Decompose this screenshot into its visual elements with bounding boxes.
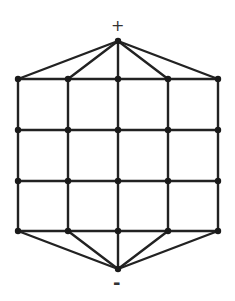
grid-node	[165, 178, 171, 184]
bottom-apex-edge	[18, 231, 118, 269]
grid-node	[15, 76, 21, 82]
grid-node	[15, 178, 21, 184]
grid-node	[215, 127, 221, 133]
grid-node	[65, 127, 71, 133]
grid-node	[215, 178, 221, 184]
top-apex-edge	[118, 41, 218, 79]
positive-terminal-label: +	[111, 18, 124, 34]
graph-edges	[18, 41, 218, 269]
grid-node	[115, 76, 121, 82]
grid-node	[215, 76, 221, 82]
grid-graph-diagram	[0, 0, 235, 301]
grid-node	[65, 228, 71, 234]
bottom-apex-edge	[68, 231, 118, 269]
grid-node	[165, 127, 171, 133]
bottom-apex-edge	[118, 231, 168, 269]
grid-node	[165, 76, 171, 82]
grid-node	[115, 178, 121, 184]
grid-node	[215, 228, 221, 234]
top-apex-node	[115, 38, 121, 44]
grid-node	[65, 76, 71, 82]
grid-node	[15, 127, 21, 133]
grid-node	[65, 178, 71, 184]
top-apex-edge	[68, 41, 118, 79]
grid-node	[115, 228, 121, 234]
negative-terminal-label: -	[113, 274, 120, 292]
top-apex-edge	[18, 41, 118, 79]
top-apex-edge	[118, 41, 168, 79]
grid-node	[15, 228, 21, 234]
grid-node	[115, 127, 121, 133]
bottom-apex-edge	[118, 231, 218, 269]
grid-node	[165, 228, 171, 234]
